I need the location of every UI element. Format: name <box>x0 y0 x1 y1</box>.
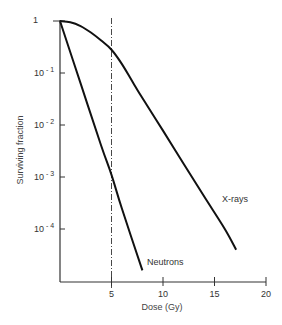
x-tick-label: 15 <box>209 289 219 299</box>
survival-curve-chart: 110 - 110 - 210 - 310 - 4 5101520 X-rays… <box>0 0 282 325</box>
xrays-curve <box>60 21 236 250</box>
x-axis-label: Dose (Gy) <box>141 302 182 312</box>
x-tick-label: 10 <box>158 289 168 299</box>
y-tick-label: 10 - 1 <box>34 66 54 78</box>
y-tick-label: 1 <box>33 15 38 25</box>
x-tick-label: 5 <box>109 289 114 299</box>
y-tick-label: 10 - 2 <box>34 118 54 130</box>
xrays-label: X-rays <box>222 194 249 204</box>
y-axis-label: Surviving fraction <box>15 115 25 184</box>
neutrons-label: Neutrons <box>147 257 184 267</box>
x-axis-ticks: 5101520 <box>109 277 271 299</box>
y-tick-label: 10 - 3 <box>34 170 54 182</box>
x-tick-label: 20 <box>261 289 271 299</box>
y-tick-label: 10 - 4 <box>34 222 54 234</box>
neutrons-curve <box>60 21 142 270</box>
